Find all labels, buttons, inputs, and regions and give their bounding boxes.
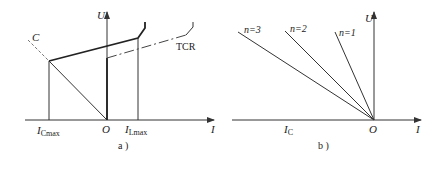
capacitor-extension-line <box>28 40 49 61</box>
line-n-2 <box>285 31 374 120</box>
tcr-limit-bend <box>186 22 193 35</box>
panel-a: U I O C TCR ICmax ILmax a ) <box>25 9 216 152</box>
i-cmax-label: ICmax <box>36 124 60 138</box>
i-lmax-label-sub: Lmax <box>129 128 148 137</box>
panel-a-origin-label: O <box>102 123 110 135</box>
i-cmax-label-sub: Cmax <box>41 129 60 138</box>
diagram-canvas: U I O C TCR ICmax ILmax a ) n=3 n=2 n=1 … <box>0 0 444 169</box>
svc-combined-characteristic <box>49 22 145 61</box>
panel-b: n=3 n=2 n=1 U I O IC b ) <box>232 12 421 152</box>
panel-a-u-label: U <box>97 9 106 21</box>
panel-a-i-label: I <box>210 123 216 135</box>
capacitor-characteristic-line <box>49 61 107 120</box>
line-n-3 <box>238 32 374 120</box>
label-n-3: n=3 <box>244 24 261 35</box>
panel-b-u-label: U <box>365 12 374 24</box>
ic-label-sub: C <box>288 128 293 137</box>
panel-b-origin-label: O <box>369 123 377 135</box>
capacitor-label: C <box>32 31 40 43</box>
tcr-label: TCR <box>176 41 196 52</box>
panel-b-i-label: I <box>415 123 421 135</box>
ic-label: IC <box>283 123 293 137</box>
label-n-2: n=2 <box>290 23 307 34</box>
tcr-characteristic-line <box>107 35 186 58</box>
i-lmax-label: ILmax <box>124 123 147 137</box>
panel-b-caption: b ) <box>318 140 329 152</box>
panel-a-caption: a ) <box>118 140 128 152</box>
label-n-1: n=1 <box>339 27 356 38</box>
